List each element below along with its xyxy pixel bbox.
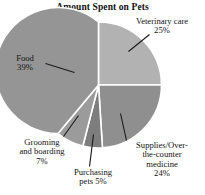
pie-label-purchasing-pets: Purchasing pets 5% (57, 168, 129, 187)
pie-label-purchasing-line2: pets 5% (57, 177, 129, 186)
pie-chart-figure: Amount Spent on Pets Veterinary care 25%… (0, 0, 205, 195)
pie-label-food: Food 39% (2, 54, 48, 73)
pie-label-supplies-otc-medicine: Supplies/Over- the-counter medicine 24% (120, 141, 204, 179)
pie-label-grooming-value: 7% (1, 157, 83, 166)
pie-label-supplies-value: 24% (120, 169, 204, 178)
pie-label-grooming-and-boarding: Grooming and boarding 7% (1, 138, 83, 166)
pie-label-veterinary-care-value: 25% (120, 26, 204, 35)
pie-label-veterinary-care: Veterinary care 25% (120, 17, 204, 36)
pie-label-food-value: 39% (2, 63, 48, 72)
pie-slice-supplies-otc-medicine[interactable] (99, 85, 162, 148)
